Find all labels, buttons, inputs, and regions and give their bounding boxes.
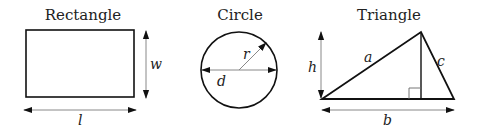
side-a-label: a [364, 49, 372, 65]
right-angle-marker [409, 88, 421, 99]
rectangle-shape [26, 30, 134, 97]
rectangle-title: Rectangle [45, 6, 122, 24]
base-label: b [383, 112, 392, 128]
length-label: l [78, 112, 82, 128]
geometry-diagram: Rectangle w l Circle r d Triangle h a c … [0, 0, 480, 135]
rectangle-figure: Rectangle w l [24, 6, 162, 128]
triangle-figure: Triangle h a c b [308, 6, 454, 128]
diameter-label: d [217, 73, 226, 89]
height-label: h [308, 59, 317, 75]
width-label: w [150, 56, 162, 72]
circle-figure: Circle r d [201, 6, 277, 108]
side-c-label: c [437, 53, 445, 69]
circle-title: Circle [217, 6, 263, 24]
triangle-title: Triangle [357, 6, 421, 24]
triangle-shape [322, 32, 454, 99]
